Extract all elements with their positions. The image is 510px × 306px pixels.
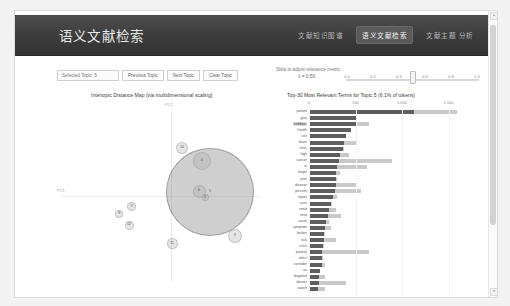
- barchart-panel-title: Top-30 Most Relevant Terms for Topic 5 (…: [287, 92, 415, 98]
- barchart-gridline-0: [309, 108, 310, 296]
- topic-bubble-label: 6: [198, 189, 200, 193]
- top-terms-barchart[interactable]: 05001,0001,5002,000 patientgivechildrenh…: [273, 100, 495, 296]
- barchart-term-label[interactable]: ex: [303, 268, 307, 272]
- topic-bubble-3[interactable]: 3: [228, 229, 242, 243]
- bar-topic-frequency: [309, 269, 320, 273]
- barchart-term-label[interactable]: treat: [300, 213, 307, 217]
- barchart-xtick-3: 1,500: [443, 100, 453, 105]
- barchart-gridline-3: [449, 108, 450, 296]
- top-navbar: 语义文献检索 文献知识图谱 语义文献检索 文献主题 分析: [15, 15, 496, 56]
- topic-bubble-11[interactable]: 11: [167, 238, 178, 249]
- barchart-term-label[interactable]: diagnost: [294, 274, 307, 278]
- topic-bubble-4[interactable]: 4: [193, 152, 211, 170]
- mds-axis-label-pc2: PC2: [165, 102, 173, 107]
- bar-topic-frequency: [309, 226, 325, 230]
- barchart-term-label[interactable]: children: [293, 122, 307, 126]
- barchart-term-label[interactable]: crisis: [299, 244, 307, 248]
- barchart-term-label[interactable]: can: [301, 134, 307, 138]
- barchart-term-label[interactable]: symptom: [293, 225, 307, 229]
- topic-bubble-label: 4: [201, 159, 203, 163]
- scroll-down-arrow-icon[interactable]: ▼: [490, 288, 498, 296]
- barchart-term-label[interactable]: year: [300, 177, 307, 181]
- bar-topic-frequency: [309, 220, 326, 224]
- barchart-term-label[interactable]: cancer: [296, 158, 307, 162]
- barchart-term-label[interactable]: give: [301, 116, 307, 120]
- topic-bubble-label: 1: [204, 196, 206, 200]
- topic-bubble-label: 3: [234, 234, 236, 238]
- selected-topic-display[interactable]: Selected Topic: 5: [57, 70, 119, 81]
- barchart-term-label[interactable]: before: [297, 231, 307, 235]
- topic-bubble-1[interactable]: 1: [202, 194, 209, 201]
- bar-topic-frequency: [309, 263, 322, 267]
- bar-topic-frequency: [309, 208, 329, 212]
- barchart-term-label[interactable]: in: [304, 164, 307, 168]
- scrollbar-thumb[interactable]: [490, 25, 496, 225]
- barchart-term-label[interactable]: percent: [295, 189, 307, 193]
- barchart-xtick-2: 1,000: [397, 100, 407, 105]
- barchart-term-label[interactable]: cause: [298, 219, 307, 223]
- bar-topic-frequency: [309, 214, 328, 218]
- topic-bubble-label: 9: [131, 205, 133, 209]
- intertopic-distance-map[interactable]: PC2 PC1 5461310118912: [53, 100, 269, 290]
- nav-link-topic-analysis[interactable]: 文献主题 分析: [420, 26, 480, 44]
- topic-bubble-9[interactable]: 9: [127, 202, 136, 211]
- bar-topic-frequency: [309, 250, 322, 254]
- topic-controls: Selected Topic: 5 Previous Topic Next To…: [57, 70, 238, 81]
- bar-topic-frequency: [309, 177, 336, 181]
- barchart-term-label[interactable]: decent: [296, 280, 307, 284]
- nav-link-knowledge-graph[interactable]: 文献知识图谱: [292, 26, 349, 44]
- topic-bubble-12[interactable]: 12: [125, 221, 134, 230]
- bar-topic-frequency: [309, 183, 336, 187]
- bar-topic-frequency: [309, 116, 356, 120]
- relevance-slider[interactable]: Slide to adjust relevance metric: λ = 0.…: [272, 67, 494, 87]
- barchart-term-label[interactable]: case: [300, 201, 307, 205]
- barchart-term-label[interactable]: clinic: [299, 146, 307, 150]
- topic-bubble-label: 11: [170, 242, 174, 246]
- bar-topic-frequency: [309, 141, 344, 145]
- barchart-term-label[interactable]: share: [298, 140, 307, 144]
- topic-bubble-8[interactable]: 8: [115, 210, 123, 218]
- slider-handle[interactable]: [410, 71, 416, 84]
- nav-link-semantic-search[interactable]: 语义文献检索: [356, 26, 413, 44]
- topic-bubble-label: 5: [209, 190, 211, 194]
- barchart-term-label[interactable]: need: [299, 207, 307, 211]
- topic-bubble-label: 12: [127, 223, 131, 227]
- barchart-term-label[interactable]: consider: [294, 262, 307, 266]
- browser-viewport: 语义文献检索 文献知识图谱 语义文献检索 文献主题 分析 Selected To…: [14, 10, 498, 298]
- mds-panel-title: Intertopic Distance Map (via multidimens…: [91, 92, 212, 98]
- bar-topic-frequency: [309, 110, 414, 114]
- topic-bubble-10[interactable]: 10: [176, 142, 188, 154]
- bar-topic-frequency: [309, 165, 337, 169]
- bar-topic-frequency: [309, 171, 336, 175]
- slider-tick-4: 0.8: [448, 74, 454, 79]
- next-topic-button[interactable]: Next Topic: [167, 70, 200, 81]
- barchart-xtick-0: 0: [308, 100, 310, 105]
- barchart-term-label[interactable]: patient: [296, 109, 307, 113]
- barchart-term-label[interactable]: particip: [296, 250, 307, 254]
- previous-topic-button[interactable]: Previous Topic: [122, 70, 164, 81]
- slider-tick-5: 1.0: [474, 74, 480, 79]
- clear-topic-button[interactable]: Clear Topic: [203, 70, 238, 81]
- barchart-term-label[interactable]: sick: [301, 238, 307, 242]
- barchart-term-label[interactable]: disease: [295, 183, 307, 187]
- bar-topic-frequency: [309, 238, 324, 242]
- bar-topic-frequency: [309, 159, 339, 163]
- bar-topic-frequency: [309, 202, 331, 206]
- barchart-term-label[interactable]: report: [298, 195, 307, 199]
- app-brand-title: 语义文献检索: [59, 25, 144, 45]
- bar-topic-frequency: [309, 281, 319, 285]
- bar-topic-frequency: [309, 147, 343, 151]
- barchart-term-label[interactable]: high: [300, 152, 307, 156]
- scroll-up-arrow-icon[interactable]: ▲: [490, 12, 498, 20]
- barchart-term-label[interactable]: infect: [299, 256, 307, 260]
- barchart-term-label[interactable]: watch: [298, 286, 307, 290]
- bar-topic-frequency: [309, 275, 319, 279]
- content-area: Selected Topic: 5 Previous Topic Next To…: [15, 56, 496, 296]
- barchart-term-label[interactable]: forget: [298, 170, 307, 174]
- bar-topic-frequency: [309, 189, 335, 193]
- lambda-value-label: λ = 0.50: [298, 74, 315, 79]
- vertical-scrollbar[interactable]: ▲ ▼: [488, 11, 497, 297]
- bar-topic-frequency: [309, 287, 318, 291]
- barchart-term-label[interactable]: health: [297, 128, 307, 132]
- bar-topic-frequency: [309, 153, 340, 157]
